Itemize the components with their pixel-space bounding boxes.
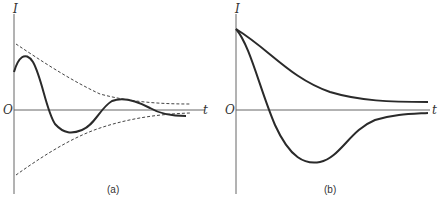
panel-a: I t O (a) (3, 2, 208, 195)
caption-a: (a) (107, 184, 119, 195)
x-axis-label: t (432, 103, 437, 117)
lower-envelope (16, 113, 190, 175)
overdamped-curve (236, 29, 428, 102)
caption-b: (b) (324, 184, 336, 195)
y-axis-label: I (12, 2, 18, 16)
x-axis-label: t (203, 103, 208, 117)
origin-label: O (225, 103, 235, 117)
panel-b: I t O (b) (225, 2, 437, 195)
upper-envelope (16, 44, 190, 104)
y-axis-label: I (234, 2, 240, 16)
diagram-canvas: I t O (a) I t O (b) (0, 0, 443, 200)
origin-label: O (3, 103, 13, 117)
